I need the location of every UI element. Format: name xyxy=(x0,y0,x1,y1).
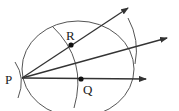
label-r: R xyxy=(66,28,75,43)
bisector-diagram: P R Q xyxy=(0,0,179,111)
point-r xyxy=(68,42,73,47)
bisector-ray xyxy=(22,38,167,78)
arc-at-p xyxy=(15,62,21,98)
ray-pq xyxy=(22,78,146,79)
point-q xyxy=(78,76,83,81)
label-p: P xyxy=(5,72,12,87)
ray-pr xyxy=(22,8,128,78)
label-q: Q xyxy=(83,82,93,97)
construction-circle xyxy=(22,21,134,111)
